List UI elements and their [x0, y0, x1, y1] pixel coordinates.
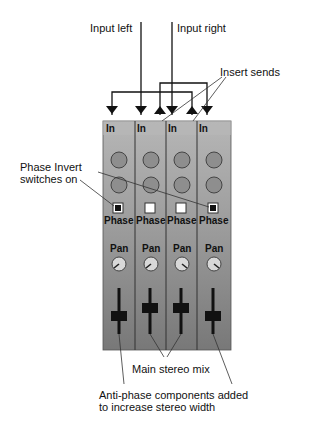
pan-label: Pan — [110, 243, 128, 254]
phase-switch-off[interactable] — [176, 203, 186, 213]
pan-label: Pan — [205, 243, 223, 254]
phase-label: Phase — [199, 215, 229, 226]
insert-sends-label: Insert sends — [220, 66, 280, 78]
eq-knob[interactable] — [174, 177, 190, 193]
pan-label: Pan — [142, 243, 160, 254]
phase-label: Phase — [136, 215, 166, 226]
pan-label: Pan — [173, 243, 191, 254]
in-label: In — [168, 123, 177, 134]
input-wiring — [112, 22, 207, 115]
gain-knob[interactable] — [111, 152, 127, 168]
fader-cap[interactable] — [142, 303, 158, 313]
phase-label: Phase — [167, 215, 197, 226]
in-label: In — [106, 123, 115, 134]
insert-bracket-a — [112, 92, 192, 115]
main-stereo-mix-label: Main stereo mix — [132, 363, 210, 375]
eq-knob[interactable] — [206, 177, 222, 193]
in-label: In — [137, 123, 146, 134]
input-right-label: Input right — [177, 22, 226, 34]
fader-cap[interactable] — [205, 311, 221, 321]
gain-knob[interactable] — [143, 152, 159, 168]
arrow-up-ch2-send — [154, 106, 166, 114]
arrow-down-ch1 — [106, 106, 118, 114]
gain-knob[interactable] — [206, 152, 222, 168]
phase-invert-label-line2: switches on — [20, 173, 77, 185]
anti-phase-label-line2: to increase stereo width — [99, 401, 215, 413]
arrow-down-ch4 — [201, 106, 213, 114]
arrow-down-ch2-input-left — [135, 106, 147, 114]
input-left-label: Input left — [90, 22, 132, 34]
arrowheads — [106, 106, 213, 114]
phase-switch-off[interactable] — [145, 203, 155, 213]
phase-label: Phase — [104, 215, 134, 226]
gain-knob[interactable] — [174, 152, 190, 168]
arrow-up-ch3-send — [186, 106, 198, 114]
insert-bracket-b — [160, 83, 207, 115]
phase-invert-label-line1: Phase Invert — [20, 161, 82, 173]
fader-cap[interactable] — [111, 311, 127, 321]
fader-cap[interactable] — [173, 303, 189, 313]
eq-knob[interactable] — [111, 177, 127, 193]
anti-phase-label-line1: Anti-phase components added — [99, 389, 248, 401]
arrow-down-ch3-input-right — [166, 106, 178, 114]
in-label: In — [199, 123, 208, 134]
